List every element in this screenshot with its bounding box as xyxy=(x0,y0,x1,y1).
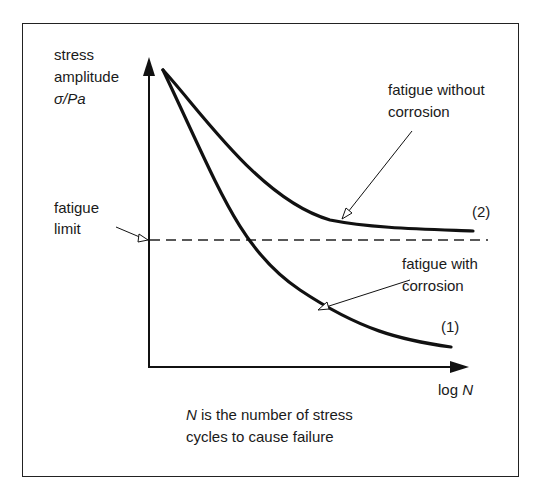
y-axis-label-line3: σ/Pa xyxy=(54,89,86,109)
x-axis-label-prefix: log xyxy=(438,381,462,398)
x-axis-label: log N xyxy=(438,380,473,400)
curve2-tag: (2) xyxy=(472,202,490,222)
curve2-label-line2: corrosion xyxy=(388,102,450,122)
fatigue-limit-label-line1: fatigue xyxy=(54,198,99,218)
pointer-without-corrosion-icon xyxy=(342,208,352,219)
caption-line1: N is the number of stress xyxy=(186,405,353,425)
leader-fatigue-limit xyxy=(116,227,142,238)
caption-var: N xyxy=(186,406,197,423)
leader-with-corrosion xyxy=(326,280,410,307)
curve1-tag: (1) xyxy=(441,317,459,337)
caption-line1-rest: is the number of stress xyxy=(197,406,353,423)
y-axis-arrow-icon xyxy=(143,57,155,76)
leader-without-corrosion xyxy=(348,131,412,212)
x-axis-label-var: N xyxy=(462,381,473,398)
caption-line2: cycles to cause failure xyxy=(186,427,334,447)
y-axis-label-line2: amplitude xyxy=(54,67,119,87)
pointer-fatigue-limit-icon xyxy=(138,234,148,242)
x-axis-arrow-icon xyxy=(450,361,469,373)
y-axis-label-line1: stress xyxy=(54,45,94,65)
curve1-label-line2: corrosion xyxy=(402,276,464,296)
curve2-label-line1: fatigue without xyxy=(388,80,485,100)
fatigue-limit-label-line2: limit xyxy=(54,219,81,239)
curve1-label-line1: fatigue with xyxy=(402,254,478,274)
